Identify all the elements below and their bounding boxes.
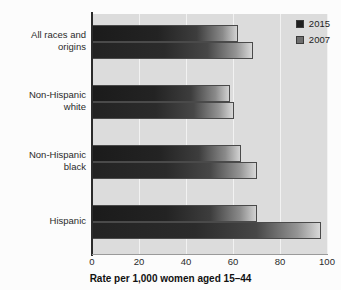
category-label-nh-white: Non-Hispanic white: [0, 89, 86, 112]
bar-nh-black-2007: [92, 162, 257, 179]
bar-all-races-2007: [92, 42, 253, 59]
x-axis-title: Rate per 1,000 women aged 15–44: [0, 273, 341, 284]
bar-row-2007: [92, 102, 327, 119]
bar-all-races-2015: [92, 25, 238, 42]
category-label-nh-black: Non-Hispanic black: [0, 149, 86, 172]
category-label-line: Hispanic: [0, 215, 86, 227]
bar-row-2015: [92, 85, 327, 102]
category-label-line: All races and: [0, 29, 86, 41]
plot-area: [92, 14, 327, 254]
category-label-line: black: [0, 161, 86, 173]
bar-row-2015: [92, 205, 327, 222]
category-label-hispanic: Hispanic: [0, 215, 86, 227]
bar-nh-black-2015: [92, 145, 241, 162]
legend: 2015 2007: [296, 18, 330, 50]
legend-label: 2015: [309, 18, 330, 29]
bar-row-2007: [92, 162, 327, 179]
bar-row-2007: [92, 222, 327, 239]
bar-group-all-races: [92, 25, 327, 59]
category-label-line: origins: [0, 41, 86, 53]
legend-label: 2007: [309, 34, 330, 45]
legend-item-2015: 2015: [296, 18, 330, 29]
x-axis-line: [92, 254, 328, 255]
legend-swatch-icon: [296, 36, 304, 44]
bar-hispanic-2007: [92, 222, 321, 239]
bar-chart: All races and origins Non-Hispanic white…: [0, 0, 341, 290]
xtick-label-80: 80: [267, 256, 293, 267]
bar-nh-white-2015: [92, 85, 230, 102]
bar-hispanic-2015: [92, 205, 257, 222]
xtick-label-20: 20: [126, 256, 152, 267]
category-label-line: Non-Hispanic: [0, 149, 86, 161]
bar-row-2015: [92, 145, 327, 162]
category-label-line: white: [0, 101, 86, 113]
bar-row-2007: [92, 42, 327, 59]
xtick-label-0: 0: [79, 256, 105, 267]
xtick-label-60: 60: [220, 256, 246, 267]
bar-row-2015: [92, 25, 327, 42]
legend-item-2007: 2007: [296, 34, 330, 45]
y-axis-line: [91, 12, 93, 256]
bar-group-nh-white: [92, 85, 327, 119]
gridline-100: [327, 14, 328, 254]
bar-group-nh-black: [92, 145, 327, 179]
category-label-line: Non-Hispanic: [0, 89, 86, 101]
bar-nh-white-2007: [92, 102, 234, 119]
bar-group-hispanic: [92, 205, 327, 239]
legend-swatch-icon: [296, 20, 304, 28]
xtick-label-40: 40: [173, 256, 199, 267]
category-label-all-races: All races and origins: [0, 29, 86, 52]
xtick-label-100: 100: [314, 256, 340, 267]
